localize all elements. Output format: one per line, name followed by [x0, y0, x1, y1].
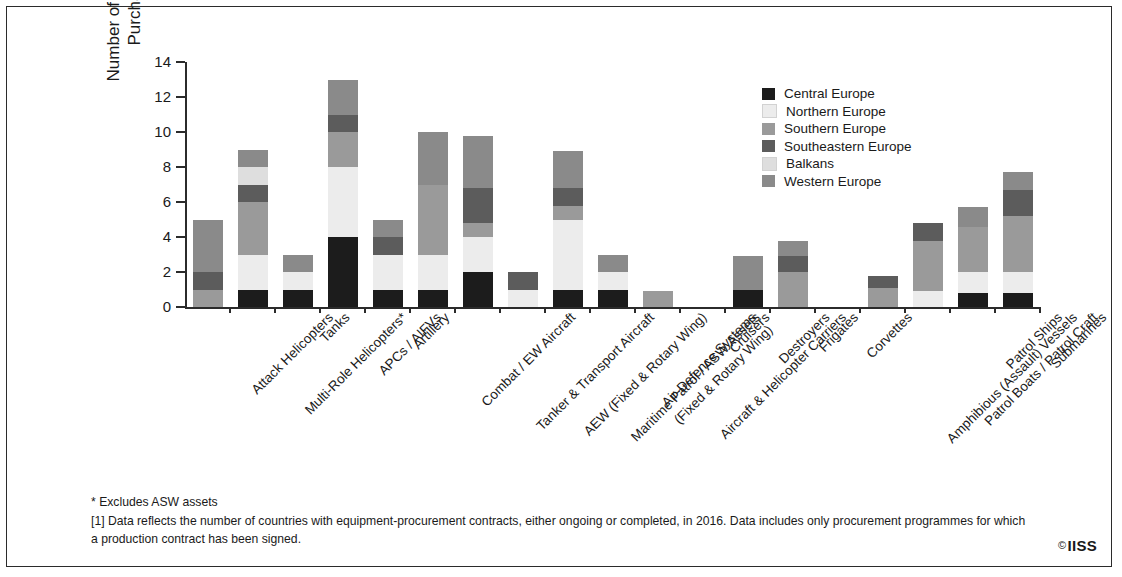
bar-segment	[328, 80, 358, 115]
bar-segment	[283, 290, 313, 308]
bar-stack	[778, 241, 808, 308]
y-tick	[176, 96, 185, 98]
asterisk-note: * Excludes ASW assets	[91, 494, 1031, 511]
bar-segment	[553, 188, 583, 206]
footnotes: * Excludes ASW assets [1] Data reflects …	[91, 494, 1031, 548]
chart-frame: 02468101214 Number of Countries Purchasi…	[6, 6, 1112, 567]
bar-segment	[913, 241, 943, 292]
bar-stack	[1003, 172, 1033, 307]
bar-segment	[373, 255, 403, 290]
bar-segment	[328, 237, 358, 307]
bar-segment	[373, 220, 403, 238]
bar-segment	[418, 255, 448, 290]
legend-label: Northern Europe	[786, 105, 886, 119]
bar-segment	[463, 136, 493, 189]
y-tick-label: 8	[131, 159, 171, 174]
legend-swatch	[762, 140, 775, 152]
bar-segment	[328, 167, 358, 237]
y-axis-title: Number of Countries Purchasing	[103, 0, 146, 118]
bar-segment	[868, 288, 898, 307]
bar-segment	[193, 220, 223, 273]
bar-segment	[868, 276, 898, 288]
bar-stack	[868, 276, 898, 308]
legend-swatch	[762, 104, 777, 118]
bar-segment	[463, 188, 493, 223]
bar-segment	[238, 202, 268, 255]
bar-segment	[913, 223, 943, 241]
bar-segment	[553, 151, 583, 188]
legend-label: Central Europe	[784, 87, 875, 101]
y-tick	[176, 236, 185, 238]
y-tick	[176, 201, 185, 203]
iiss-branding: ©IISS	[1058, 537, 1097, 554]
bar-stack	[373, 220, 403, 308]
bar-segment	[553, 206, 583, 220]
bar-stack	[193, 220, 223, 308]
legend-item: Central Europe	[762, 85, 912, 103]
bar-segment	[283, 255, 313, 273]
bar-segment	[1003, 293, 1033, 307]
y-tick-label: 10	[131, 124, 171, 139]
legend: Central EuropeNorthern EuropeSouthern Eu…	[762, 85, 912, 190]
x-axis-label: Corvettes	[862, 309, 916, 363]
legend-swatch	[762, 123, 775, 135]
y-tick	[176, 166, 185, 168]
bar-segment	[418, 185, 448, 255]
x-axis-label-line: Corvettes	[862, 309, 916, 363]
bar-segment	[463, 223, 493, 237]
y-tick	[176, 271, 185, 273]
bar-stack	[283, 255, 313, 308]
bar-stack	[598, 255, 628, 308]
bar-segment	[373, 290, 403, 308]
data-footnote: [1] Data reflects the number of countrie…	[91, 513, 1031, 548]
bar-segment	[553, 220, 583, 290]
legend-label: Western Europe	[784, 175, 881, 189]
bar-segment	[958, 227, 988, 273]
legend-item: Southeastern Europe	[762, 138, 912, 156]
bar-segment	[733, 290, 763, 308]
legend-swatch	[762, 88, 775, 100]
bar-segment	[553, 290, 583, 308]
bar-segment	[913, 291, 943, 307]
bar-segment	[1003, 172, 1033, 190]
bar-segment	[193, 272, 223, 290]
bar-segment	[598, 272, 628, 290]
y-tick-label: 4	[131, 229, 171, 244]
legend-label: Balkans	[786, 157, 834, 171]
bar-stack	[958, 207, 988, 307]
bar-segment	[238, 167, 268, 185]
bar-segment	[598, 255, 628, 273]
bar-segment	[508, 272, 538, 290]
bar-segment	[1003, 272, 1033, 293]
plot-area: Number of Countries Purchasing	[185, 62, 1040, 307]
x-axis-label-line: Amphibious (Assault) Vessels	[943, 309, 1082, 448]
bar-segment	[238, 150, 268, 168]
bar-stack	[643, 291, 673, 307]
y-tick	[176, 306, 185, 308]
bar-segment	[778, 256, 808, 272]
bar-segment	[328, 115, 358, 133]
bar-segment	[1003, 216, 1033, 272]
y-tick-label: 6	[131, 194, 171, 209]
bar-segment	[418, 290, 448, 308]
bar-stack	[328, 80, 358, 308]
bar-segment	[283, 272, 313, 290]
bar-segment	[418, 132, 448, 185]
bar-segment	[238, 185, 268, 203]
x-axis-label: Amphibious (Assault) Vessels	[943, 309, 1082, 448]
legend-item: Balkans	[762, 155, 912, 173]
bar-segment	[958, 293, 988, 307]
bar-segment	[733, 256, 763, 289]
bar-segment	[643, 291, 673, 307]
copyright-icon: ©	[1058, 539, 1066, 551]
bar-segment	[463, 272, 493, 307]
y-axis-line	[185, 62, 187, 307]
legend-swatch	[762, 175, 775, 187]
bar-segment	[463, 237, 493, 272]
bar-segment	[508, 290, 538, 308]
legend-item: Western Europe	[762, 173, 912, 191]
legend-swatch	[762, 157, 777, 171]
bar-stack	[463, 136, 493, 308]
legend-item: Northern Europe	[762, 103, 912, 121]
bar-segment	[598, 290, 628, 308]
